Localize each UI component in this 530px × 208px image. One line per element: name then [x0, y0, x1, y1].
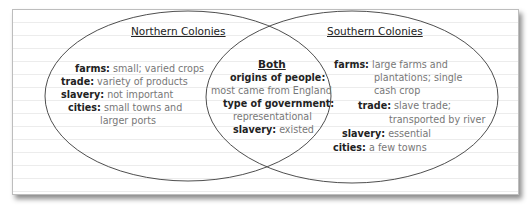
- item-label: slavery:: [342, 128, 385, 139]
- southern-title: Southern Colonies: [327, 25, 423, 38]
- item-value: variety of products: [97, 76, 188, 87]
- item-label: trade:: [61, 76, 94, 87]
- southern-item-farms: farms: large farms and: [334, 58, 448, 71]
- northern-item-trade: trade: variety of products: [61, 75, 188, 88]
- both-slavery: slavery: existed: [233, 123, 314, 136]
- item-value: not important: [107, 89, 173, 100]
- both-origins-label: origins of people:: [230, 71, 325, 84]
- both-origins-value: most came from England: [211, 84, 332, 97]
- both-government-label: type of government:: [223, 97, 334, 110]
- item-value: large farms and: [372, 59, 448, 70]
- item-value: essential: [388, 128, 431, 139]
- item-value: a few towns: [369, 142, 427, 153]
- southern-item-slavery: slavery: essential: [342, 127, 431, 140]
- item-label: slavery:: [61, 89, 104, 100]
- both-government-value: representational: [233, 110, 312, 123]
- item-value: small towns and: [104, 102, 182, 113]
- item-label: cities:: [333, 142, 366, 153]
- northern-title: Northern Colonies: [131, 25, 226, 38]
- northern-item-cities-cont: larger ports: [100, 114, 156, 127]
- northern-item-farms: farms: small; varied crops: [75, 62, 204, 75]
- southern-item-trade: trade: slave trade;: [358, 99, 451, 112]
- item-value: existed: [279, 124, 314, 135]
- northern-item-cities: cities: small towns and: [68, 101, 182, 114]
- item-label: farms:: [334, 59, 369, 70]
- southern-item-trade-cont: transported by river: [389, 113, 485, 126]
- item-label: slavery:: [233, 124, 276, 135]
- southern-item-cities: cities: a few towns: [333, 141, 427, 154]
- both-title: Both: [258, 58, 286, 71]
- northern-item-slavery: slavery: not important: [61, 88, 173, 101]
- item-label: cities:: [68, 102, 101, 113]
- item-value: small; varied crops: [113, 63, 204, 74]
- item-label: farms:: [75, 63, 110, 74]
- item-label: trade:: [358, 100, 391, 111]
- southern-item-farms-cont-1: plantations; single: [374, 71, 462, 84]
- southern-item-farms-cont-2: cash crop: [374, 84, 420, 97]
- item-value: slave trade;: [394, 100, 451, 111]
